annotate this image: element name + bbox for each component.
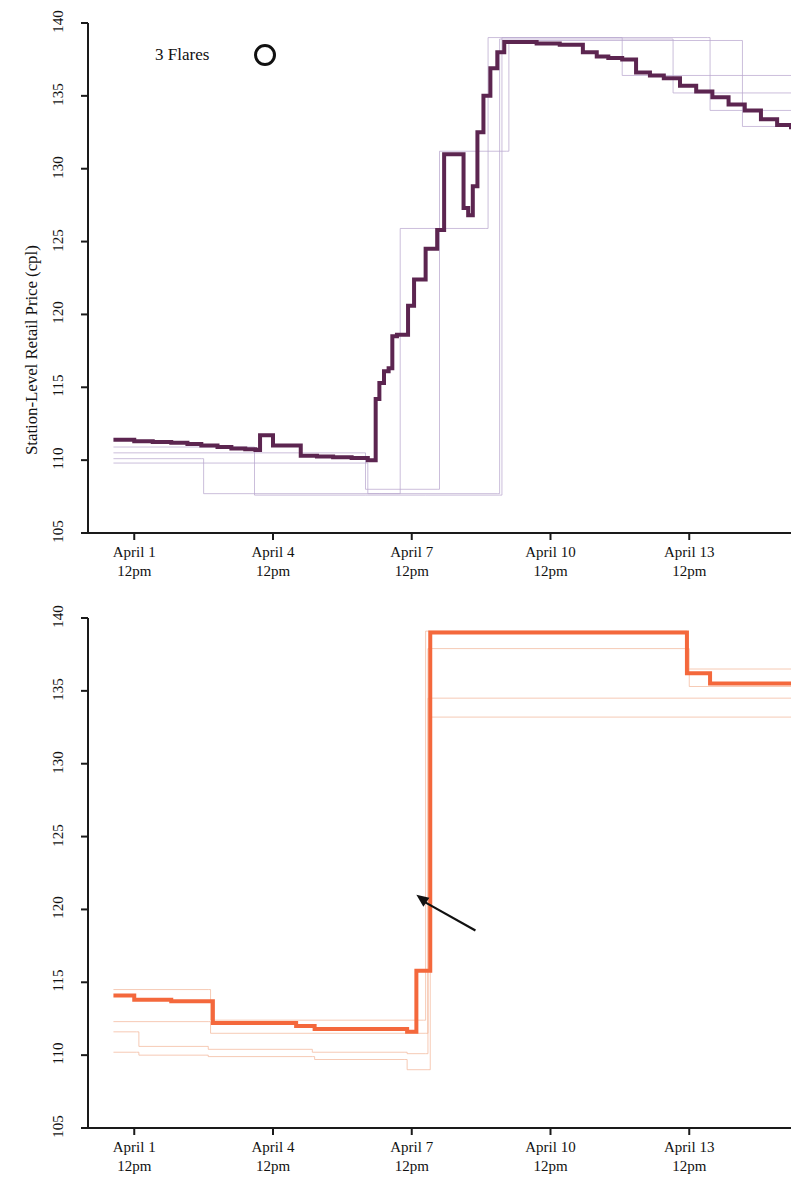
x-tick-label: April 1312pm xyxy=(634,543,744,581)
y-tick-label: 125 xyxy=(50,223,67,257)
x-tick-date: April 13 xyxy=(634,543,744,562)
x-tick-date: April 10 xyxy=(496,1138,606,1157)
x-tick-time: 12pm xyxy=(496,1157,606,1176)
x-tick-label: April 712pm xyxy=(357,1138,467,1176)
x-tick-time: 12pm xyxy=(79,562,189,581)
y-tick-label: 135 xyxy=(50,77,67,111)
top-chart-panel: Station-Level Retail Price (cpl) 3 Flare… xyxy=(0,0,791,595)
x-tick-label: April 112pm xyxy=(79,543,189,581)
top-chart-plot xyxy=(0,0,791,560)
series-line xyxy=(113,39,791,494)
y-tick-label: 115 xyxy=(50,964,67,998)
x-tick-date: April 7 xyxy=(357,1138,467,1157)
y-tick-label: 130 xyxy=(50,745,67,779)
y-tick-label: 105 xyxy=(50,1110,67,1144)
circle-marker-icon xyxy=(254,44,276,66)
x-tick-time: 12pm xyxy=(634,1157,744,1176)
x-tick-time: 12pm xyxy=(634,562,744,581)
flares-annotation-label: 3 Flares xyxy=(155,44,209,65)
y-tick-label: 140 xyxy=(50,600,67,634)
series-line xyxy=(113,633,791,1032)
y-tick-label: 140 xyxy=(50,5,67,39)
x-tick-date: April 13 xyxy=(634,1138,744,1157)
y-tick-label: 135 xyxy=(50,672,67,706)
x-tick-date: April 4 xyxy=(218,543,328,562)
y-tick-label: 110 xyxy=(50,1037,67,1071)
x-tick-time: 12pm xyxy=(357,1157,467,1176)
series-line xyxy=(113,631,791,1020)
y-tick-label: 110 xyxy=(50,442,67,476)
x-tick-date: April 10 xyxy=(496,543,606,562)
x-tick-date: April 1 xyxy=(79,1138,189,1157)
x-tick-time: 12pm xyxy=(496,562,606,581)
x-tick-label: April 1312pm xyxy=(634,1138,744,1176)
x-tick-label: April 712pm xyxy=(357,543,467,581)
x-tick-label: April 1012pm xyxy=(496,543,606,581)
x-tick-date: April 1 xyxy=(79,543,189,562)
x-tick-label: April 112pm xyxy=(79,1138,189,1176)
top-chart-y-axis-title: Station-Level Retail Price (cpl) xyxy=(22,245,42,455)
y-tick-label: 125 xyxy=(50,818,67,852)
y-tick-label: 115 xyxy=(50,369,67,403)
axis-lines xyxy=(88,618,791,1128)
series-line xyxy=(113,40,791,489)
series-line xyxy=(113,649,791,1034)
y-tick-label: 105 xyxy=(50,515,67,549)
x-tick-time: 12pm xyxy=(218,1157,328,1176)
x-tick-label: April 412pm xyxy=(218,543,328,581)
series-line xyxy=(113,38,791,494)
x-tick-date: April 4 xyxy=(218,1138,328,1157)
bottom-chart-plot xyxy=(0,595,791,1155)
series-line xyxy=(113,42,791,460)
x-tick-date: April 7 xyxy=(357,543,467,562)
y-tick-label: 120 xyxy=(50,891,67,925)
x-tick-time: 12pm xyxy=(218,562,328,581)
y-tick-label: 120 xyxy=(50,296,67,330)
x-tick-time: 12pm xyxy=(79,1157,189,1176)
x-tick-label: April 1012pm xyxy=(496,1138,606,1176)
series-line xyxy=(113,38,791,496)
series-line xyxy=(113,698,791,1054)
y-tick-label: 130 xyxy=(50,150,67,184)
x-tick-time: 12pm xyxy=(357,562,467,581)
x-tick-label: April 412pm xyxy=(218,1138,328,1176)
bottom-chart-panel: Station-Level Retail Price (cpl) Most st… xyxy=(0,595,791,1187)
series-line xyxy=(113,717,791,1070)
